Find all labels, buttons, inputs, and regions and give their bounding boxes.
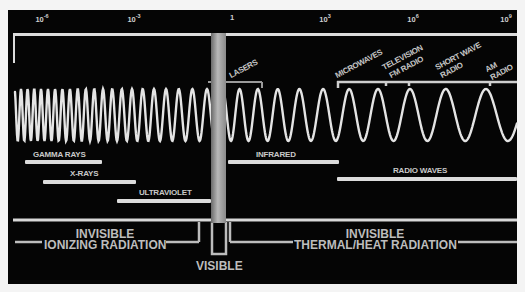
region-thermal: INVISIBLE THERMAL/HEAT RADIATION: [294, 229, 456, 251]
bar-x-rays: [43, 180, 136, 184]
region-visible: VISIBLE: [196, 261, 242, 272]
bar-gamma-rays: [25, 160, 102, 164]
label-infrared: INFRARED: [256, 151, 296, 159]
region-ionizing: INVISIBLE IONIZING RADIATION: [44, 229, 166, 251]
label-radio-waves: RADIO WAVES: [393, 167, 447, 175]
bar-infrared: [228, 160, 339, 164]
region-ionizing-line2: IONIZING RADIATION: [44, 240, 166, 251]
visible-bracket: [212, 222, 226, 254]
label-ultraviolet: ULTRAVIOLET: [139, 189, 192, 197]
bar-ultraviolet: [117, 199, 211, 203]
region-thermal-line2: THERMAL/HEAT RADIATION: [294, 240, 456, 251]
label-x-rays: X-RAYS: [70, 170, 98, 178]
label-gamma-rays: GAMMA RAYS: [33, 151, 86, 159]
visible-band: [211, 33, 226, 223]
bar-radio-waves: [337, 177, 517, 181]
radio-bracket: [337, 81, 517, 88]
